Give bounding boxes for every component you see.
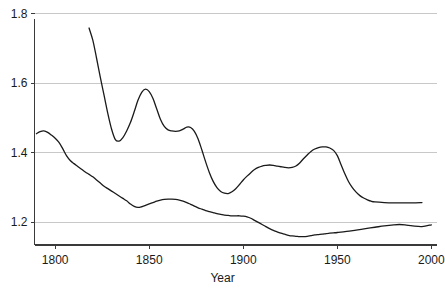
y-tick-label-1: 1.4 [11, 147, 28, 159]
axis-ticks [31, 14, 432, 249]
x-tick-label-3: 1950 [317, 254, 357, 266]
x-axis-title: Year [0, 272, 445, 284]
series-line-upper-curve [89, 28, 422, 203]
series-line-lower-curve [36, 131, 431, 237]
y-tick-label-0: 1.2 [11, 216, 28, 228]
x-tick-label-4: 2000 [411, 254, 445, 266]
data-series [36, 28, 431, 237]
y-tick-label-2: 1.6 [11, 77, 28, 89]
x-tick-label-0: 1800 [35, 254, 75, 266]
y-tick-label-3: 1.8 [11, 8, 28, 20]
x-tick-label-2: 1900 [223, 254, 263, 266]
line-chart: 1.21.41.61.8 18001850190019502000 Year [0, 0, 445, 291]
plot-area [0, 0, 445, 291]
gridlines [35, 14, 438, 223]
x-tick-label-1: 1850 [129, 254, 169, 266]
